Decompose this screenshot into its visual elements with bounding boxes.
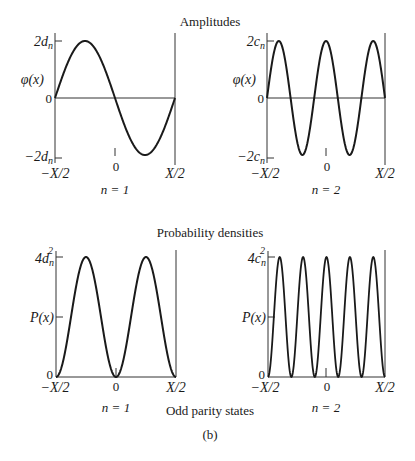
n-label: n = 1 — [101, 182, 129, 197]
ybottom-label: −2dn — [25, 149, 53, 166]
plot-amplitude-n2: 2cn φ(x) 0 −2cn −X/2 0 X/2 n = 2 — [233, 33, 395, 197]
ylabel: P(x) — [29, 310, 54, 326]
caption: Odd parity states — [166, 403, 254, 418]
ylabel: P(x) — [241, 310, 266, 326]
ytop-label: 2cn — [247, 34, 265, 51]
probability-curve — [56, 257, 176, 377]
xmid-label: 0 — [324, 379, 331, 394]
zero-label: 0 — [46, 91, 53, 106]
xleft-label: −X/2 — [251, 166, 280, 181]
n-label: n = 2 — [312, 182, 341, 197]
probability-title: Probability densities — [157, 225, 264, 240]
plot-probability-n1: 4dn2 P(x) 0 −X/2 0 X/2 n = 1 — [29, 245, 186, 415]
plot-probability-n2: 4cn2 P(x) 0 −X/2 0 X/2 n = 2 — [241, 245, 395, 415]
sublabel: (b) — [202, 427, 217, 442]
xmid-label: 0 — [113, 379, 120, 394]
xleft-label: −X/2 — [251, 380, 280, 395]
odd-parity-figure: Amplitudes Probability densities Odd par… — [0, 0, 415, 461]
plot-amplitude-n1: 2dn φ(x) 0 −2dn −X/2 0 X/2 n = 1 — [21, 33, 185, 197]
xright-label: X/2 — [374, 166, 394, 181]
xmid-label: 0 — [113, 159, 120, 174]
ytop-label: 2dn — [34, 34, 53, 51]
xright-label: X/2 — [164, 166, 184, 181]
n-label: n = 1 — [102, 400, 130, 415]
xleft-label: −X/2 — [41, 166, 70, 181]
ytop-label: 4dn2 — [35, 245, 54, 268]
zero-label: 0 — [258, 91, 265, 106]
xleft-label: −X/2 — [41, 380, 70, 395]
ylabel: φ(x) — [233, 72, 257, 88]
probability-curve — [268, 257, 385, 377]
xright-label: X/2 — [374, 380, 394, 395]
xmid-label: 0 — [324, 159, 331, 174]
amplitudes-title: Amplitudes — [180, 14, 241, 29]
xright-label: X/2 — [165, 380, 185, 395]
n-label: n = 2 — [312, 400, 341, 415]
ybottom-label: −2cn — [237, 149, 265, 166]
ylabel: φ(x) — [21, 72, 45, 88]
ytop-label: 4cn2 — [248, 245, 266, 268]
